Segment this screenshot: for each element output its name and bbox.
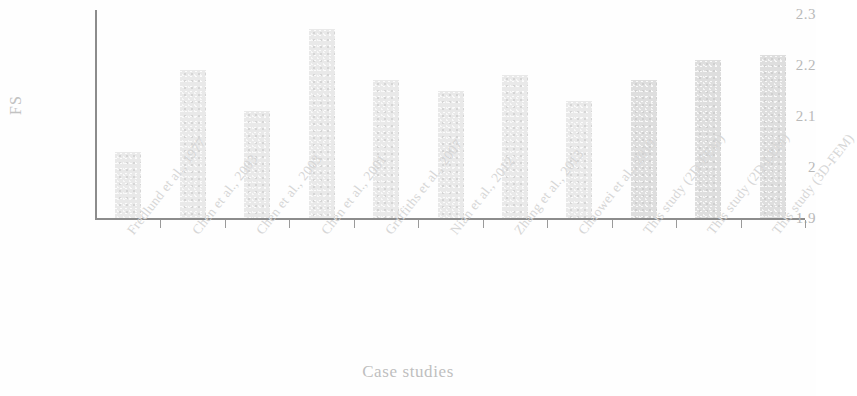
x-tick-mark	[160, 220, 161, 228]
y-axis-title: FS	[7, 95, 25, 115]
y-axis-line	[95, 10, 97, 220]
x-tick-mark	[483, 220, 484, 228]
bar	[309, 29, 335, 218]
x-tick-mark	[612, 220, 613, 228]
bar	[115, 152, 141, 218]
x-tick-mark	[354, 220, 355, 228]
y-tick-label: 2.3	[774, 6, 816, 23]
x-axis-title: Case studies	[0, 362, 816, 382]
x-tick-mark	[805, 220, 806, 228]
bar	[373, 80, 399, 218]
bar	[502, 75, 528, 218]
x-tick-mark	[676, 220, 677, 228]
x-tick-mark	[741, 220, 742, 228]
x-tick-mark	[225, 220, 226, 228]
x-tick-mark	[418, 220, 419, 228]
x-tick-mark	[547, 220, 548, 228]
x-tick-mark	[289, 220, 290, 228]
